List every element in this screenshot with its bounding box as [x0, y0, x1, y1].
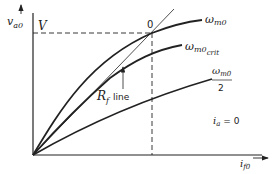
voltage-label: V: [38, 19, 48, 33]
magnetization-diagram: va0 V 0 ωm0 ωm0crit ωm0 2 Rfline ia = 0 …: [0, 0, 275, 174]
svg-text:ωm0: ωm0: [212, 65, 232, 78]
svg-text:2: 2: [218, 83, 224, 93]
curve-wm0-half: [33, 79, 212, 155]
curve-label-wm0-crit: ωm0crit: [185, 40, 219, 57]
curve-wm0: [33, 20, 202, 155]
rf-line-label: Rfline: [96, 89, 130, 105]
curve-label-wm0: ωm0: [205, 13, 227, 27]
curve-label-wm0-half: ωm0 2: [212, 65, 232, 93]
condition-label: ia = 0: [213, 115, 240, 128]
operating-point-label: 0: [147, 19, 153, 30]
y-axis-label: va0: [7, 15, 23, 30]
x-axis-label: if0: [240, 158, 251, 171]
